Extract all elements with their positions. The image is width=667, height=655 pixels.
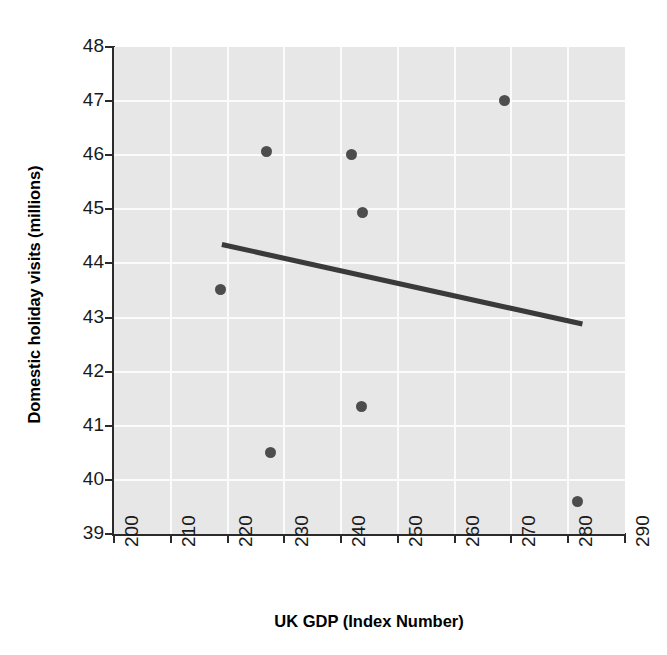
scatter-chart: Domestic holiday visits (millions) 48474… <box>0 0 667 655</box>
x-tick-label: 200 <box>121 515 143 547</box>
x-tick-label: 220 <box>235 515 257 547</box>
x-axis-title: UK GDP (Index Number) <box>113 612 625 631</box>
x-axis-tick-labels: 200210220230240250260270280290 <box>0 0 667 655</box>
x-tick-label: 290 <box>632 515 654 547</box>
x-tick-label: 230 <box>291 515 313 547</box>
x-tick-label: 260 <box>462 515 484 547</box>
x-tick-label: 240 <box>348 515 370 547</box>
x-tick-label: 270 <box>518 515 540 547</box>
x-tick-label: 210 <box>178 515 200 547</box>
x-tick-label: 250 <box>405 515 427 547</box>
x-tick-label: 280 <box>575 515 597 547</box>
